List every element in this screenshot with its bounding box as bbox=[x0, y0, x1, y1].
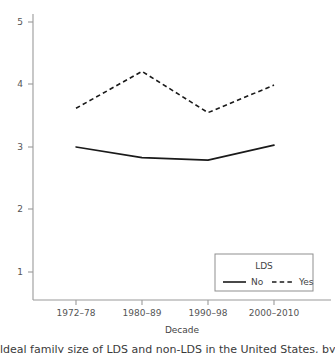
legend-title: LDS bbox=[255, 261, 273, 271]
x-tick-label-4: 2000–2010 bbox=[249, 308, 300, 318]
y-tick-label-1: 1 bbox=[17, 267, 23, 277]
x-axis-ticks: 1972–78 1980–89 1990–98 2000–2010 bbox=[57, 300, 300, 318]
x-tick-label-1: 1972–78 bbox=[57, 308, 96, 318]
series-line-no bbox=[76, 145, 274, 160]
legend[interactable]: LDS No Yes bbox=[215, 254, 314, 291]
figure-caption: ldeal family size of LDS and non-LDS in … bbox=[0, 344, 335, 353]
y-tick-label-3: 3 bbox=[17, 142, 23, 152]
series-line-yes bbox=[76, 71, 274, 112]
legend-label-no: No bbox=[251, 277, 264, 287]
y-tick-label-5: 5 bbox=[17, 17, 23, 27]
y-tick-label-4: 4 bbox=[17, 79, 23, 89]
line-chart: 5 4 3 2 1 1972–78 1980–89 1990–98 2000–2… bbox=[0, 0, 335, 353]
x-tick-label-2: 1980–89 bbox=[123, 308, 162, 318]
y-axis-ticks: 5 4 3 2 1 bbox=[17, 17, 33, 277]
series-group bbox=[76, 71, 274, 160]
legend-label-yes: Yes bbox=[298, 277, 314, 287]
figure-container: 5 4 3 2 1 1972–78 1980–89 1990–98 2000–2… bbox=[0, 0, 335, 353]
x-tick-label-3: 1990–98 bbox=[189, 308, 228, 318]
x-axis-title: Decade bbox=[165, 325, 200, 335]
y-tick-label-2: 2 bbox=[17, 204, 23, 214]
